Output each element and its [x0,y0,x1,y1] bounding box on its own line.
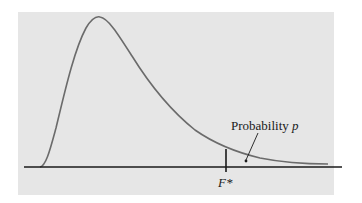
annotation-label: Probability p [231,118,299,133]
annotation-dot [245,160,248,163]
critical-value-label: F* [217,175,233,190]
f-distribution-figure: Probability p F* [0,0,362,203]
